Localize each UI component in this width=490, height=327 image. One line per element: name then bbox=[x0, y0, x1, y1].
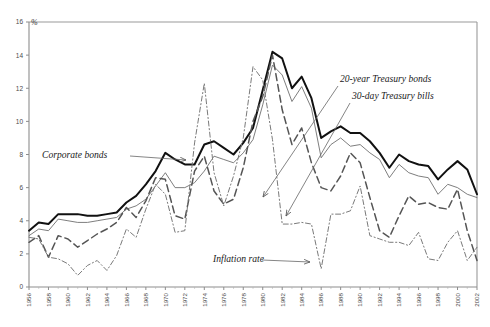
x-tick-label: 1966 bbox=[123, 292, 130, 306]
y-axis-unit-label: % bbox=[31, 18, 38, 27]
x-tick-label: 1980 bbox=[259, 292, 266, 306]
y-tick-label: 2 bbox=[19, 250, 23, 257]
x-tick-label: 1996 bbox=[415, 292, 422, 306]
annotation-label-corporate-bonds: Corporate bonds bbox=[42, 149, 108, 160]
x-tick-label: 2002 bbox=[473, 292, 480, 306]
annotation-label-treasury-bonds-20y: 20-year Treasury bonds bbox=[340, 73, 432, 84]
x-tick-label: 2000 bbox=[454, 292, 461, 306]
annotation-arrow-inflation-rate bbox=[262, 260, 310, 262]
y-tick-label: 4 bbox=[19, 217, 23, 224]
x-tick-label: 1992 bbox=[376, 292, 383, 306]
y-tick-label: 6 bbox=[19, 184, 23, 191]
x-tick-label: 1986 bbox=[317, 292, 324, 306]
x-tick-label: 1956 bbox=[25, 292, 32, 306]
x-tick-label: 1974 bbox=[201, 292, 208, 306]
x-tick-label: 1962 bbox=[84, 292, 91, 306]
x-tick-label: 1994 bbox=[395, 292, 402, 306]
y-tick-label: 12 bbox=[16, 85, 24, 92]
x-tick-label: 1988 bbox=[337, 292, 344, 306]
x-tick-label: 1982 bbox=[279, 292, 286, 306]
x-tick-label: 1960 bbox=[64, 292, 71, 306]
annotation-arrow-treasury-bills-30d bbox=[286, 103, 350, 216]
x-tick-label: 1972 bbox=[181, 292, 188, 306]
y-tick-label: 8 bbox=[19, 151, 23, 158]
x-tick-label: 1968 bbox=[142, 292, 149, 306]
x-tick-label: 1976 bbox=[220, 292, 227, 306]
chart-canvas: 0246810121416% 1956195819601962196419661… bbox=[0, 0, 490, 327]
x-tick-label: 1978 bbox=[240, 292, 247, 306]
x-tick-label: 1970 bbox=[162, 292, 169, 306]
x-tick-label: 1998 bbox=[434, 292, 441, 306]
y-tick-label: 16 bbox=[16, 18, 24, 25]
series-lines bbox=[29, 52, 477, 276]
chart-annotations: Corporate bonds20-year Treasury bonds30-… bbox=[42, 73, 434, 264]
y-axis: 0246810121416% bbox=[16, 18, 38, 290]
interest-rate-chart: 0246810121416% 1956195819601962196419661… bbox=[0, 0, 490, 327]
x-tick-label: 1990 bbox=[356, 292, 363, 306]
x-tick-label: 1964 bbox=[103, 292, 110, 306]
x-tick-label: 1958 bbox=[45, 292, 52, 306]
annotation-arrow-treasury-bonds-20y bbox=[263, 86, 338, 197]
annotation-label-inflation-rate: Inflation rate bbox=[212, 253, 265, 264]
annotation-label-treasury-bills-30d: 30-day Treasury bills bbox=[351, 90, 434, 101]
x-tick-label: 1984 bbox=[298, 292, 305, 306]
y-tick-label: 10 bbox=[16, 118, 24, 125]
y-tick-label: 14 bbox=[16, 52, 24, 59]
annotation-arrow-corporate-bonds bbox=[130, 156, 186, 160]
x-axis: 1956195819601962196419661968197019721974… bbox=[25, 287, 480, 307]
y-tick-label: 0 bbox=[19, 283, 23, 290]
